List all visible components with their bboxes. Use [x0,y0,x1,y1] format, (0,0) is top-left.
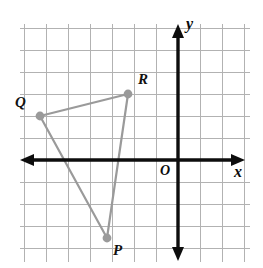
y-axis-arrow-up [172,24,184,38]
point-label-r: R [138,72,148,87]
point-label-p: P [113,243,122,258]
origin-label: O [160,164,170,178]
vertex-dot-q [36,112,45,121]
axes [27,31,238,252]
y-axis-label: y [186,16,193,32]
vertex-dot-r [124,90,133,99]
triangle-pqr-outline [40,94,128,238]
coordinate-plane-figure: Q R P O y x [0,0,263,268]
x-axis-arrow-left [20,154,34,166]
triangle-pqr [40,94,128,238]
coordinate-plane-canvas [0,0,263,268]
vertex-dot-p [103,234,112,243]
y-axis-arrow-down [172,247,184,261]
x-axis-label: x [234,164,242,180]
point-label-q: Q [15,95,26,110]
